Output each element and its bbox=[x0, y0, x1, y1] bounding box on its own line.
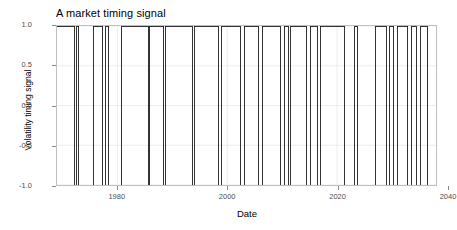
y-tick-label: 0.5 bbox=[0, 61, 32, 69]
x-tick-mark bbox=[338, 186, 339, 190]
y-tick-mark bbox=[52, 65, 56, 66]
signal-line-plot bbox=[57, 26, 436, 185]
chart-container: A market timing signal Volatility timing… bbox=[0, 0, 457, 230]
y-tick-label: -0.5 bbox=[0, 142, 32, 150]
y-tick-mark bbox=[52, 25, 56, 26]
x-tick-mark bbox=[227, 186, 228, 190]
y-axis-title: Volatility timing signal bbox=[23, 30, 33, 190]
y-tick-label: 0.0 bbox=[0, 102, 32, 110]
x-tick-label: 2000 bbox=[204, 192, 250, 201]
x-tick-mark bbox=[117, 186, 118, 190]
x-tick-mark bbox=[448, 186, 449, 190]
x-axis-title: Date bbox=[56, 208, 438, 219]
x-tick-label: 2040 bbox=[425, 192, 457, 201]
y-tick-label: -1.0 bbox=[0, 182, 32, 190]
x-tick-label: 2020 bbox=[315, 192, 361, 201]
y-tick-mark bbox=[52, 106, 56, 107]
y-tick-mark bbox=[52, 146, 56, 147]
x-tick-label: 1980 bbox=[94, 192, 140, 201]
y-tick-label: 1.0 bbox=[0, 21, 32, 29]
plot-panel bbox=[56, 25, 437, 186]
chart-title: A market timing signal bbox=[56, 7, 166, 20]
y-tick-mark bbox=[52, 186, 56, 187]
gridlines bbox=[57, 26, 436, 185]
